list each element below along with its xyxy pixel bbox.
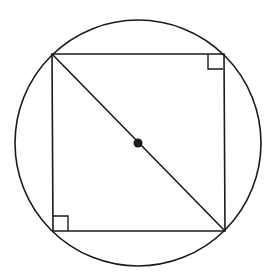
center-point xyxy=(134,139,143,148)
inscribed-square-diagram xyxy=(0,0,272,279)
